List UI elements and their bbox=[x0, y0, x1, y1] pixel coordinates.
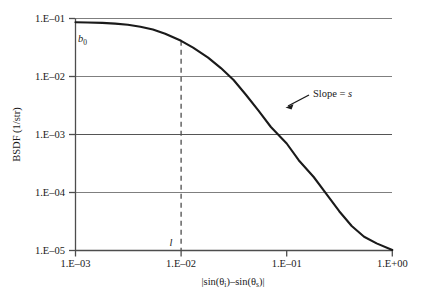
x-tick-label-3: 1.E+00 bbox=[377, 258, 408, 269]
x-tick-label-1: 1.E–02 bbox=[166, 258, 196, 269]
x-tick-label-0: 1.E–03 bbox=[60, 258, 90, 269]
slope-label: Slope = s bbox=[313, 88, 352, 99]
bsdf-chart: 1.E–01 1.E–02 1.E–03 1.E–04 1.E–05 1.E–0… bbox=[0, 0, 427, 297]
y-tick-label-1: 1.E–02 bbox=[35, 71, 65, 82]
x-tick-label-2: 1.E–01 bbox=[272, 258, 302, 269]
knee-label: l bbox=[170, 237, 173, 248]
y-tick-label-0: 1.E–01 bbox=[35, 13, 65, 24]
y-tick-label-3: 1.E–04 bbox=[35, 187, 66, 198]
y-tick-label-2: 1.E–03 bbox=[35, 129, 65, 140]
y-axis-title: BSDF (1/str) bbox=[11, 107, 23, 162]
y-tick-label-4: 1.E–05 bbox=[35, 245, 65, 256]
